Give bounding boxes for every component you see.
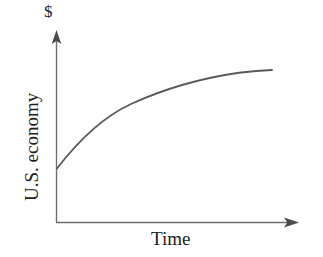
x-axis-title-label: Time bbox=[151, 228, 190, 250]
growth-curve-line bbox=[57, 70, 272, 169]
y-axis-title-label: U.S. economy bbox=[21, 93, 43, 201]
plot-area bbox=[0, 0, 323, 257]
y-axis-unit-label: $ bbox=[44, 2, 53, 22]
economy-growth-figure: $ Time U.S. economy bbox=[0, 0, 323, 257]
